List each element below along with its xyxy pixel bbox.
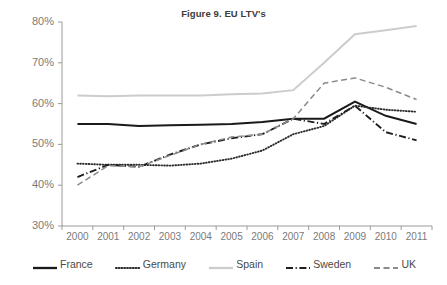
legend-label-sweden: Sweden: [313, 258, 351, 270]
series-line-sweden: [77, 106, 416, 177]
x-axis-ticks: [62, 226, 432, 230]
series-line-spain: [77, 26, 416, 96]
x-axis-tick-label: 2011: [399, 231, 435, 242]
legend-item-uk[interactable]: UK: [373, 258, 416, 270]
y-axis-tick-label: 30%: [20, 219, 54, 231]
legend-swatch-uk: [373, 259, 399, 269]
axes: [58, 22, 432, 230]
legend-item-spain[interactable]: Spain: [208, 258, 263, 270]
legend-label-spain: Spain: [236, 258, 263, 270]
y-axis-tick-label: 70%: [20, 56, 54, 68]
legend-swatch-spain: [208, 259, 234, 269]
y-axis-tick-label: 80%: [20, 15, 54, 27]
chart-container: Figure 9. EU LTV's 30%40%50%60%70%80% 20…: [0, 0, 447, 285]
data-series-group: [77, 26, 416, 185]
y-axis-tick-label: 60%: [20, 97, 54, 109]
chart-legend: FranceGermanySpainSwedenUK: [18, 252, 430, 276]
y-axis-tick-label: 50%: [20, 137, 54, 149]
legend-item-germany[interactable]: Germany: [115, 258, 186, 270]
legend-swatch-sweden: [285, 259, 311, 269]
legend-item-sweden[interactable]: Sweden: [285, 258, 351, 270]
legend-swatch-germany: [115, 259, 141, 269]
legend-label-uk: UK: [401, 258, 416, 270]
y-axis-ticks: [58, 22, 62, 226]
legend-swatch-france: [32, 259, 58, 269]
plot-area: [0, 0, 447, 285]
series-line-france: [77, 102, 416, 126]
y-axis-tick-label: 40%: [20, 178, 54, 190]
legend-item-france[interactable]: France: [32, 258, 93, 270]
legend-label-germany: Germany: [143, 258, 186, 270]
legend-label-france: France: [60, 258, 93, 270]
